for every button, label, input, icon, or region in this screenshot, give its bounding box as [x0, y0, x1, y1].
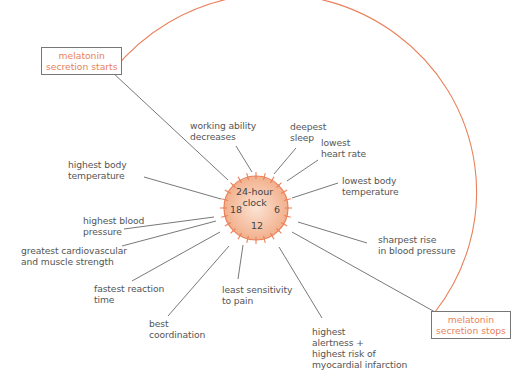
label-working-ability: working ability decreases — [190, 120, 256, 142]
label-highest-blood-pressure: highest blood pressure — [83, 215, 144, 237]
melatonin-stop-box: melatonin secretion stops — [431, 311, 511, 339]
melatonin-arc — [112, 0, 477, 312]
label-lowest-body-temp: lowest body temperature — [342, 175, 399, 197]
label-fastest-reaction: fastest reaction time — [94, 283, 164, 305]
label-best-coordination: best coordination — [149, 318, 205, 340]
label-sharpest-rise: sharpest rise in blood pressure — [378, 234, 456, 256]
label-highest-alertness: highest alertness + highest risk of myoc… — [312, 326, 407, 370]
label-least-pain: least sensitivity to pain — [222, 284, 292, 306]
melatonin-start-box: melatonin secretion starts — [41, 47, 122, 75]
clock-hour-6: 6 — [274, 204, 280, 215]
label-cardio-strength: greatest cardiovascular and muscle stren… — [21, 245, 127, 267]
clock-hour-18: 18 — [230, 204, 242, 215]
clock-hour-12: 12 — [251, 220, 263, 231]
label-lowest-heart-rate: lowest heart rate — [321, 137, 366, 159]
label-highest-body-temp: highest body temperature — [68, 159, 127, 181]
